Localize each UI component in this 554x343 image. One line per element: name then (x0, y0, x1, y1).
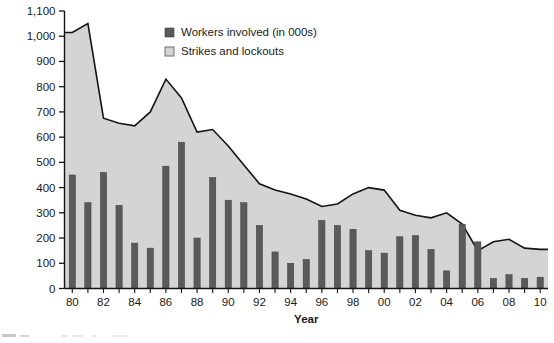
x-tick-label: 84 (128, 296, 141, 308)
y-tick-label: 400 (36, 182, 55, 194)
x-tick-label: 08 (503, 296, 516, 308)
y-tick-label: 800 (36, 81, 55, 93)
bar-90 (225, 200, 231, 288)
x-tick-label: 82 (97, 296, 110, 308)
bar-98 (350, 229, 356, 288)
bar-05 (459, 224, 465, 288)
y-tick-label: 0 (49, 283, 55, 295)
x-tick-label: 02 (409, 296, 422, 308)
chart-container: 01002003004005006007008009001,0001,100 8… (0, 0, 554, 343)
x-tick-label: 98 (347, 296, 360, 308)
y-tick-label: 900 (36, 55, 55, 67)
bar-09 (521, 278, 527, 288)
x-tick-label: 94 (284, 296, 297, 308)
x-tick-label: 90 (222, 296, 235, 308)
bar-95 (303, 259, 309, 288)
bar-91 (241, 203, 247, 289)
x-tick-label: 86 (159, 296, 172, 308)
bar-01 (397, 237, 403, 289)
x-tick-label: 04 (440, 296, 453, 308)
bar-07 (490, 278, 496, 288)
bar-82 (100, 172, 106, 288)
legend-label: Strikes and lockouts (181, 45, 284, 57)
x-tick-label: 88 (191, 296, 204, 308)
x-tick-label: 00 (378, 296, 391, 308)
bar-00 (381, 253, 387, 288)
strikes-and-lockouts-area-chart: 01002003004005006007008009001,0001,100 8… (0, 0, 554, 343)
bar-06 (475, 242, 481, 289)
x-axis-title: Year (294, 313, 319, 325)
y-tick-label: 100 (36, 257, 55, 269)
bar-08 (506, 275, 512, 289)
y-axis-tick-labels: 01002003004005006007008009001,0001,100 (27, 5, 56, 295)
bar-83 (116, 205, 122, 288)
y-tick-label: 700 (36, 106, 55, 118)
bar-81 (85, 203, 91, 289)
bar-96 (319, 220, 325, 288)
bar-89 (210, 178, 216, 289)
bar-03 (428, 249, 434, 288)
bar-92 (256, 225, 262, 288)
legend-swatch (165, 47, 174, 56)
bar-86 (163, 166, 169, 288)
bar-88 (194, 238, 200, 288)
x-axis-tick-labels: 80828486889092949698000204060810 (66, 296, 547, 308)
bar-84 (132, 243, 138, 288)
bar-87 (178, 142, 184, 288)
bar-94 (288, 263, 294, 288)
bar-80 (69, 175, 75, 289)
x-tick-label: 06 (471, 296, 484, 308)
x-tick-label: 92 (253, 296, 266, 308)
y-tick-label: 200 (36, 232, 55, 244)
y-axis-ticks (59, 11, 65, 289)
bar-85 (147, 248, 153, 288)
y-tick-label: 500 (36, 156, 55, 168)
bar-02 (412, 236, 418, 289)
y-tick-label: 600 (36, 131, 55, 143)
bar-04 (444, 271, 450, 289)
y-tick-label: 1,000 (27, 30, 56, 42)
x-tick-label: 10 (534, 296, 547, 308)
x-tick-label: 80 (66, 296, 79, 308)
bar-99 (366, 251, 372, 289)
x-tick-label: 96 (315, 296, 328, 308)
legend-label: Workers involved (in 000s) (181, 26, 317, 38)
y-tick-label: 1,100 (27, 5, 56, 17)
y-tick-label: 300 (36, 207, 55, 219)
bar-93 (272, 252, 278, 289)
bar-97 (334, 225, 340, 288)
bar-10 (537, 277, 543, 288)
legend-swatch (165, 28, 174, 37)
